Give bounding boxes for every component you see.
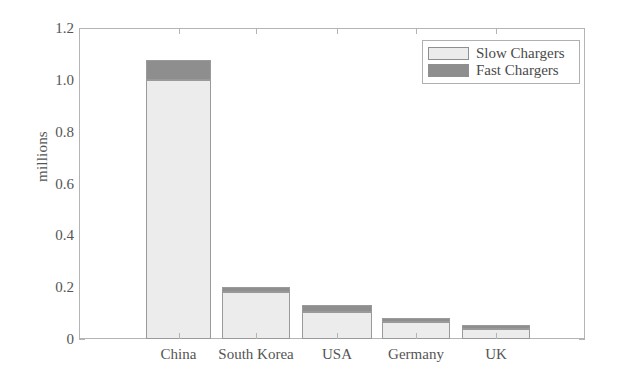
x-tick-mark — [179, 333, 180, 339]
y-tick-label: 0.6 — [0, 175, 74, 192]
bar-segment-fast-chargers[interactable] — [146, 60, 211, 80]
x-tick-mark — [496, 333, 497, 339]
x-tick-mark-top — [179, 28, 180, 34]
x-tick-mark — [416, 333, 417, 339]
legend-item-fast-chargers[interactable]: Fast Chargers — [428, 62, 574, 79]
y-tick-mark-right — [579, 339, 585, 340]
legend-label-slow-chargers: Slow Chargers — [476, 46, 564, 61]
x-tick-mark — [337, 333, 338, 339]
bar-segment-fast-chargers[interactable] — [302, 305, 372, 312]
x-tick-label: South Korea — [218, 346, 293, 363]
legend-label-fast-chargers: Fast Chargers — [476, 63, 559, 78]
y-tick-label: 0.8 — [0, 123, 74, 140]
x-tick-label: UK — [485, 346, 507, 363]
legend-swatch-slow-chargers — [428, 47, 469, 60]
x-tick-label: China — [161, 346, 197, 363]
y-tick-label: 1.0 — [0, 71, 74, 88]
x-tick-mark-top — [256, 28, 257, 34]
x-tick-mark-top — [337, 28, 338, 34]
x-tick-label: Germany — [388, 346, 444, 363]
y-tick-label: 0.2 — [0, 279, 74, 296]
bar-segment-slow-chargers[interactable] — [146, 80, 211, 339]
legend-swatch-fast-chargers — [428, 64, 469, 77]
y-tick-label: 0 — [0, 331, 74, 348]
y-tick-mark — [79, 339, 85, 340]
y-tick-label: 1.2 — [0, 20, 74, 37]
y-tick-label: 0.4 — [0, 227, 74, 244]
bar-china[interactable] — [146, 60, 211, 339]
legend-item-slow-chargers[interactable]: Slow Chargers — [428, 45, 574, 62]
y-axis-title: millions — [34, 97, 51, 217]
chart-legend: Slow Chargers Fast Chargers — [422, 40, 580, 84]
bar-segment-slow-chargers[interactable] — [222, 292, 290, 339]
x-tick-mark-top — [416, 28, 417, 34]
x-tick-mark — [256, 333, 257, 339]
bar-south-korea[interactable] — [222, 287, 290, 339]
x-tick-label: USA — [322, 346, 352, 363]
chart-figure: millions 00.20.40.60.81.01.2 ChinaSouth … — [0, 0, 617, 391]
x-tick-mark-top — [496, 28, 497, 34]
